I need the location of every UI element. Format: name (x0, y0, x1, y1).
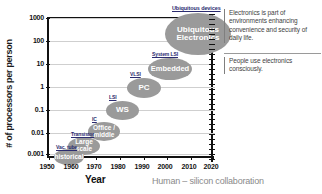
ytick-mark-0.01 (46, 133, 50, 134)
tech-label-lsi: LSI (109, 94, 116, 100)
annotation-divider (224, 53, 321, 54)
annotation-note-2: People use electronics consciously. (224, 57, 321, 74)
chart-screenshot: # of processors per person (0, 0, 322, 194)
tech-label-vlsi: VLSI (130, 71, 141, 77)
plot-right-hatch (209, 14, 215, 162)
annotation-note-2-text: People use electronics consciously. (229, 57, 321, 74)
ytick-mark-0.001 (46, 154, 50, 155)
tech-label-system-lsi: System LSI (152, 51, 178, 57)
bubble-label: Embedded (151, 65, 189, 73)
ytick-mark-1000 (46, 18, 50, 19)
ytick-mark-10 (46, 64, 50, 65)
annotations-panel: Electronics is part of environments enha… (221, 9, 322, 109)
ytick-label-0.01: 0.01 (31, 129, 44, 137)
processors-per-person-chart: # of processors per person (0, 0, 222, 194)
xtick-mark-2010 (191, 156, 192, 160)
annotation-note-1: Electronics is part of environments enha… (224, 9, 321, 43)
ytick-label-1000: 1000 (29, 14, 44, 22)
plot-area: Ubiquitous Electronics Ubiquitous device… (47, 18, 213, 158)
ytick-label-1: 1 (40, 83, 44, 91)
ytick-label-100: 100 (33, 37, 44, 45)
ytick-label-0.01-box: 0.01 (10, 129, 44, 137)
bubble-ws[interactable]: WS (106, 101, 139, 120)
x-axis-title: Year (85, 174, 105, 185)
ytick-label-100-box: 100 (10, 37, 44, 45)
tech-label-vac-tube: Vac. tube (56, 144, 77, 150)
tech-label-ic: IC (92, 116, 97, 122)
bubble-label: WS (116, 106, 129, 114)
xtick-mark-1970 (96, 156, 97, 160)
bubble-pc[interactable]: PC (127, 78, 161, 98)
xtick-label-2020: 2020 (196, 163, 226, 171)
ytick-label-10-box: 10 (10, 60, 44, 68)
xtick-mark-1980 (120, 156, 121, 160)
tech-label-ubiquitous-devices: Ubiquitous devices (172, 5, 221, 11)
xtick-mark-1950 (49, 156, 50, 160)
ytick-label-10: 10 (37, 60, 44, 68)
annotation-note-1-text: Electronics is part of environments enha… (229, 9, 321, 43)
bubble-label: historical (55, 154, 84, 161)
bubble-embedded[interactable]: Embedded (148, 58, 192, 80)
ytick-label-1000-box: 1000 (10, 14, 44, 22)
ytick-label-0.1-box: 0.1 (10, 106, 44, 114)
xtick-mark-1990 (144, 156, 145, 160)
chart-caption: Human – silicon collaboration (152, 176, 264, 186)
ytick-mark-1 (46, 87, 50, 88)
tech-label-transistor: Transistor (71, 131, 94, 137)
ytick-label-0.001-box: 0.001 (10, 150, 44, 158)
ytick-label-0.1: 0.1 (35, 106, 44, 114)
ytick-mark-0.1 (46, 110, 50, 111)
ytick-label-0.001: 0.001 (27, 150, 44, 158)
ytick-label-1-box: 1 (10, 83, 44, 91)
bubble-label: PC (138, 84, 149, 92)
ytick-mark-100 (46, 41, 50, 42)
xtick-mark-2000 (167, 156, 168, 160)
